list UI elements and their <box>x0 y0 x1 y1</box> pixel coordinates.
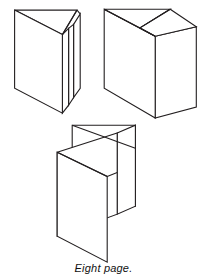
fig1-edge-right-upper <box>77 10 80 14</box>
fig3-rear-side-panel <box>117 125 135 214</box>
figure-caption: Eight page. <box>0 262 207 275</box>
accordion-fold-diagram <box>104 9 196 118</box>
gate-fold-diagram <box>57 125 135 262</box>
fig1-flap-outer <box>74 14 81 98</box>
figure-page: Eight page. <box>0 0 207 279</box>
fig1-flap-middle <box>69 24 74 105</box>
fig2-right-panel <box>155 27 196 118</box>
parallel-fold-diagram <box>15 10 81 113</box>
eight-page-fold-diagram <box>0 0 207 279</box>
fig1-flap-inner <box>62 28 68 113</box>
